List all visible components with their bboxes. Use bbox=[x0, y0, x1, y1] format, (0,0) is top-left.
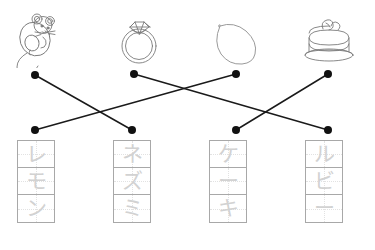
katakana-glyph: ン bbox=[18, 195, 54, 222]
worksheet-canvas: レ モ ン ネ ズ ミ ケ ー キ ル ビ ー bbox=[0, 0, 375, 250]
word-grid-remon[interactable]: レ モ ン bbox=[17, 140, 55, 223]
connection-dot[interactable] bbox=[232, 70, 240, 78]
connection-dot[interactable] bbox=[31, 126, 39, 134]
trace-cell[interactable]: キ bbox=[210, 195, 246, 222]
katakana-glyph: ー bbox=[306, 195, 342, 222]
lemon-icon bbox=[206, 11, 268, 69]
katakana-glyph: モ bbox=[18, 168, 54, 194]
word-grid-rubii[interactable]: ル ビ ー bbox=[305, 140, 343, 223]
trace-cell[interactable]: ビ bbox=[306, 168, 342, 195]
katakana-glyph: レ bbox=[18, 141, 54, 167]
connection-dot[interactable] bbox=[324, 70, 332, 78]
connection-dot[interactable] bbox=[130, 70, 138, 78]
katakana-glyph: ケ bbox=[210, 141, 246, 167]
trace-cell[interactable]: レ bbox=[18, 141, 54, 168]
trace-cell[interactable]: ン bbox=[18, 195, 54, 222]
katakana-glyph: ー bbox=[210, 168, 246, 194]
trace-cell[interactable]: モ bbox=[18, 168, 54, 195]
connection-line[interactable] bbox=[35, 74, 236, 130]
word-grid-nezumi[interactable]: ネ ズ ミ bbox=[113, 140, 151, 223]
trace-cell[interactable]: ル bbox=[306, 141, 342, 168]
mouse-picture[interactable] bbox=[12, 10, 74, 68]
katakana-glyph: ズ bbox=[114, 168, 150, 194]
word-grid-keeki[interactable]: ケ ー キ bbox=[209, 140, 247, 223]
connection-dot[interactable] bbox=[324, 126, 332, 134]
trace-cell[interactable]: ネ bbox=[114, 141, 150, 168]
trace-cell[interactable]: ー bbox=[306, 195, 342, 222]
katakana-glyph: ビ bbox=[306, 168, 342, 194]
trace-cell[interactable]: ー bbox=[210, 168, 246, 195]
katakana-glyph: ル bbox=[306, 141, 342, 167]
connection-line[interactable] bbox=[236, 74, 328, 130]
lemon-picture[interactable] bbox=[206, 11, 268, 69]
connection-dot[interactable] bbox=[128, 126, 136, 134]
mouse-icon bbox=[12, 10, 74, 68]
connection-dot[interactable] bbox=[232, 126, 240, 134]
katakana-glyph: キ bbox=[210, 195, 246, 222]
connection-line[interactable] bbox=[134, 74, 328, 130]
trace-cell[interactable]: ズ bbox=[114, 168, 150, 195]
ring-picture[interactable] bbox=[108, 10, 170, 68]
trace-cell[interactable]: ケ bbox=[210, 141, 246, 168]
cake-icon bbox=[298, 10, 360, 68]
connection-dot[interactable] bbox=[31, 71, 39, 79]
connection-line[interactable] bbox=[35, 75, 132, 130]
cake-picture[interactable] bbox=[298, 10, 360, 68]
ring-icon bbox=[108, 10, 170, 68]
trace-cell[interactable]: ミ bbox=[114, 195, 150, 222]
katakana-glyph: ネ bbox=[114, 141, 150, 167]
katakana-glyph: ミ bbox=[114, 195, 150, 222]
